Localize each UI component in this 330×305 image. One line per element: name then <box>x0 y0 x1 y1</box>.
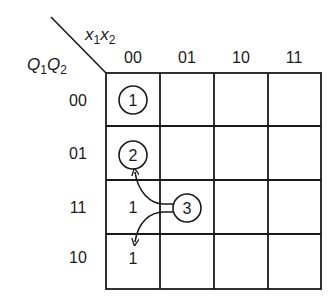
cell-r00-c00: 1 <box>119 86 147 114</box>
row-header-11: 11 <box>70 199 87 216</box>
row-header-01: 01 <box>69 145 87 162</box>
kmap-grid <box>106 73 321 289</box>
cell-r10-c00: 1 <box>129 250 138 267</box>
column-variable-label: x1x2 <box>84 25 116 47</box>
row-variable-label: Q1Q2 <box>27 55 67 77</box>
arrow-down-to-row-10 <box>135 212 173 242</box>
callout-3: 3 <box>135 172 201 242</box>
karnaugh-map-diagram: x1x2 Q1Q2 00 01 10 11 00 01 11 10 1 2 1 <box>0 0 330 305</box>
column-header-00: 00 <box>124 49 142 66</box>
callout-label-3: 3 <box>183 200 192 217</box>
column-header-10: 10 <box>232 49 250 66</box>
row-header-10: 10 <box>69 249 87 266</box>
cell-r01-c00: 2 <box>119 141 147 169</box>
row-headers: 00 01 11 10 <box>69 92 87 266</box>
row-header-00: 00 <box>69 92 87 109</box>
cell-r11-c00: 1 <box>129 199 138 216</box>
arrow-up-to-state-2 <box>135 172 173 204</box>
column-header-01: 01 <box>178 49 196 66</box>
column-headers: 00 01 10 11 <box>124 49 302 66</box>
column-header-11: 11 <box>286 49 303 66</box>
stable-state-1-value: 1 <box>129 92 138 109</box>
stable-state-2-value: 2 <box>129 147 138 164</box>
